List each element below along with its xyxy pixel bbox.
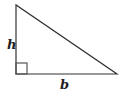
triangle-outline (16, 5, 117, 74)
height-label: h (7, 38, 16, 51)
right-angle-marker (16, 63, 27, 74)
base-label: b (60, 78, 69, 91)
